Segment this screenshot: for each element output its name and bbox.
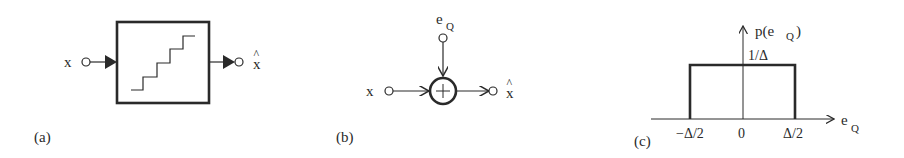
caption-b: (b) [336,129,354,146]
height-label: 1/Δ [748,48,768,63]
output-node [235,58,243,66]
output-arrow-icon [223,55,235,69]
panel-b-noise-model: e Q x x ^ (b) [336,11,514,146]
panel-c-uniform-pdf: p(e Q ) 1/Δ e Q −Δ/2 0 Δ/2 (c) [634,23,859,150]
hat-accent: ^ [507,76,513,90]
y-axis-label: p(e [755,23,774,40]
input-arrow-icon [105,55,117,69]
caption-a: (a) [34,129,51,146]
caption-c: (c) [634,133,651,150]
tick-zero: 0 [738,126,745,141]
panel-a-quantizer: x x ^ (a) [34,22,261,146]
input-node [82,58,90,66]
input-label-x: x [366,83,374,99]
noise-node [439,34,447,42]
input-label-x: x [64,54,72,70]
noise-label-sub: Q [446,20,454,32]
x-axis-label-sub: Q [851,122,859,134]
y-axis-label-sub: Q [786,30,794,42]
x-axis-label: e [841,112,848,128]
noise-label-e: e [436,11,443,27]
tick-neg-half-delta: −Δ/2 [676,126,704,141]
tick-pos-half-delta: Δ/2 [783,126,803,141]
hat-accent: ^ [254,47,260,61]
figure: x x ^ (a) e Q x x ^ (b) p(e [0,0,904,158]
output-node [489,87,497,95]
y-axis-label-close: ) [796,23,801,40]
input-node [385,87,393,95]
